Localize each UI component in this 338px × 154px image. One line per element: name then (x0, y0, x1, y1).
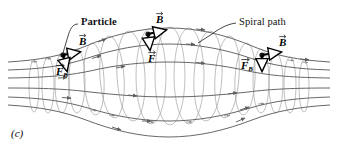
callout-label-spiral-path: Spiral path (239, 17, 286, 28)
vector-label-fb-right: FB (241, 60, 253, 71)
vector-overbar-icon (156, 11, 163, 15)
figure-magnetic-bottle: Particle Spiral path B FB B (0, 0, 338, 154)
vector-b-left-arrow (63, 52, 80, 55)
vector-overbar-icon (79, 33, 86, 37)
vector-symbol-b-top: B (156, 13, 163, 25)
leader-spiral-path (198, 23, 236, 43)
vector-label-b-left: B (79, 36, 86, 47)
field-line-4 (8, 88, 330, 97)
vector-label-b-top: B (156, 14, 163, 25)
callout-label-particle: Particle (81, 17, 117, 28)
vector-label-b-right: B (279, 37, 286, 48)
vector-symbol-b-right: B (279, 36, 286, 48)
vector-subscript-fb-right: B (248, 65, 253, 73)
panel-label: (c) (11, 127, 23, 139)
vector-label-fb-left: FB (56, 66, 68, 77)
spiral-path-group (29, 27, 309, 125)
vector-symbol-f-top: F (148, 52, 155, 64)
vector-overbar-icon (279, 34, 286, 38)
spiral-direction-arrows (31, 55, 308, 122)
vector-overbar-icon (56, 63, 65, 67)
vector-overbar-icon (241, 57, 250, 61)
vector-overbar-icon (148, 50, 156, 54)
vector-label-f-top: F (148, 53, 155, 64)
leader-particle (63, 24, 78, 53)
vector-f-top-arrow (148, 34, 150, 50)
figure-canvas (0, 0, 338, 154)
vector-symbol-b-left: B (79, 35, 86, 47)
vector-subscript-fb-left: B (63, 71, 68, 79)
